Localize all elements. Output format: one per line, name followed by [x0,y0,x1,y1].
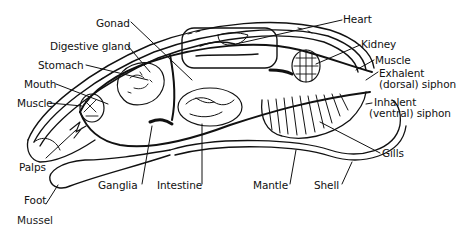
label-intestine: Intestine [157,180,202,191]
ganglia-shape [150,120,172,124]
figure-caption: Mussel [17,214,53,226]
digestive-gland [117,63,164,105]
label-gills: Gills [382,148,404,159]
label-ganglia: Ganglia [98,180,137,191]
label-heart: Heart [343,14,372,25]
label-mouth: Mouth [24,79,56,90]
label-kidney: Kidney [361,39,396,50]
label-palps: Palps [19,162,46,173]
body-outline [80,45,372,146]
label-muscle-anterior: Muscle [17,98,53,109]
label-shell: Shell [314,180,339,191]
label-mantle: Mantle [253,180,288,191]
label-foot: Foot [24,195,46,206]
posterior-ganglia [270,70,292,74]
mussel-anatomy-diagram: Gonad Digestive gland Stomach Mouth Musc… [0,0,472,230]
label-digestive-gland: Digestive gland [50,41,130,52]
palps-shape [70,122,86,138]
label-exhalent-line2: (dorsal) siphon [379,79,456,90]
label-muscle-posterior: Muscle [375,55,411,66]
label-gonad: Gonad [96,18,130,29]
intestine-coil [178,88,242,126]
label-stomach: Stomach [38,60,84,71]
gills [262,92,366,138]
label-inhalent-line2: (ventral) siphon [369,108,451,119]
posterior-muscle [292,50,320,82]
gonad-chamber [182,28,277,68]
